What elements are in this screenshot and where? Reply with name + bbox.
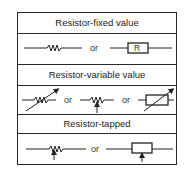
variable-resistor-zigzag-arrow-symbol <box>22 90 57 111</box>
or-label: or <box>90 43 98 53</box>
or-label: or <box>91 144 99 154</box>
or-label: or <box>122 95 130 105</box>
tapped-resistor-zigzag-symbol <box>26 146 86 160</box>
symbols-canvas: or R or or or <box>0 0 191 173</box>
variable-resistor-wiper-symbol <box>80 97 114 113</box>
resistor-box-label: R <box>134 43 140 53</box>
variable-resistor-box-arrow-symbol <box>138 90 174 111</box>
fixed-resistor-zigzag-symbol <box>24 45 82 51</box>
or-label: or <box>64 95 72 105</box>
fixed-resistor-box-symbol <box>110 43 172 53</box>
tapped-resistor-box-symbol <box>106 143 173 162</box>
